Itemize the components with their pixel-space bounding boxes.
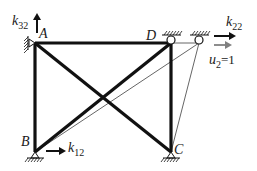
- k32-label: k32: [12, 13, 28, 31]
- u2-displacement-arrow-icon: [214, 41, 232, 49]
- k12-arrow-icon: [46, 147, 66, 155]
- roller-displaced-d-icon: [190, 31, 210, 44]
- node-label-a: A: [38, 26, 48, 41]
- truss-diagram: A B C D k32 k22 u2=1 k12: [0, 0, 257, 171]
- node-label-b: B: [21, 134, 30, 149]
- node-label-c: C: [174, 142, 184, 157]
- node-label-d: D: [145, 28, 156, 43]
- u2-label: u2=1: [209, 52, 235, 70]
- k12-label: k12: [68, 140, 84, 158]
- support-a-icon: [24, 36, 35, 53]
- support-b-icon: [25, 152, 44, 162]
- k22-label: k22: [226, 14, 242, 32]
- k22-arrow-icon: [214, 32, 236, 40]
- thin-member-b-to-displaced-d: [35, 43, 199, 152]
